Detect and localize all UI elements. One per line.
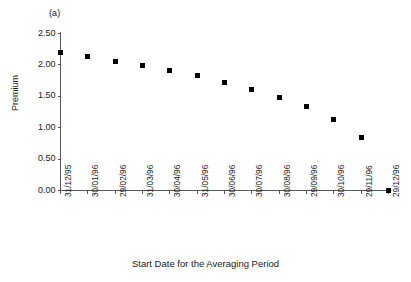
data-point [359,135,364,140]
y-tick-label: 0.00 [20,186,56,195]
x-tick-label: 29/12/96 [392,164,400,196]
data-point [140,63,145,68]
x-tick-label: 30/01/96 [91,164,99,196]
y-tick-label: 2.50 [20,29,56,38]
data-point [304,104,309,109]
x-tick-label: 29/11/96 [365,165,373,197]
x-tick-label: 31/03/96 [146,164,154,196]
data-point [331,117,336,122]
data-point [386,188,391,193]
data-point [277,95,282,100]
x-tick-label: 30/07/96 [255,164,263,196]
x-tick-label: 30/04/96 [173,164,181,196]
x-tick-label: 29/09/96 [310,164,318,196]
figure-panel-a: (a) Premium 0.000.501.001.502.002.50 31/… [0,0,411,282]
y-tick-label: 1.50 [20,91,56,100]
data-point [167,68,172,73]
x-tick-label: 29/02/96 [119,164,127,196]
chart-axes [0,0,411,282]
x-tick-label: 30/08/96 [283,164,291,196]
y-tick-label: 0.50 [20,154,56,163]
x-tick-label: 30/06/96 [228,164,236,196]
data-point [85,54,90,59]
x-axis-title: Start Date for the Averaging Period [0,258,411,269]
data-point [58,50,63,55]
x-tick-label: 31/12/95 [64,164,72,196]
y-tick-label: 2.00 [20,60,56,69]
data-point [222,80,227,85]
data-point [113,59,118,64]
y-tick-label: 1.00 [20,123,56,132]
data-point [249,87,254,92]
data-point [195,73,200,78]
x-tick-label: 31/05/96 [201,164,209,196]
x-tick-label: 30/10/96 [337,164,345,196]
